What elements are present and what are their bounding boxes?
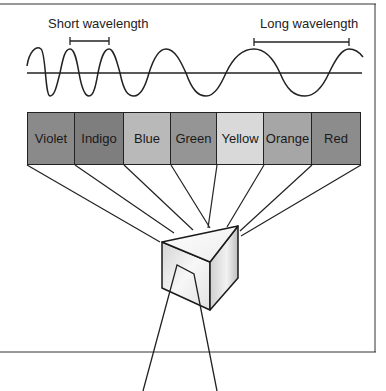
long-wavelength-bracket xyxy=(254,38,349,46)
band-violet: Violet xyxy=(27,112,75,165)
band-orange: Orange xyxy=(264,112,312,165)
band-violet-label: Violet xyxy=(35,131,67,146)
long-wavelength-label: Long wavelength xyxy=(260,16,358,31)
band-green: Green xyxy=(171,112,217,165)
short-wavelength-label: Short wavelength xyxy=(48,16,148,31)
band-blue-label: Blue xyxy=(134,131,160,146)
band-indigo-label: Indigo xyxy=(81,131,116,146)
short-wavelength-bracket xyxy=(70,37,109,45)
wave-curve xyxy=(27,48,363,96)
band-yellow-label: Yellow xyxy=(221,131,258,146)
band-blue: Blue xyxy=(124,112,171,165)
light-dispersion-diagram: Short wavelength Long wavelength Violet … xyxy=(0,0,386,391)
band-indigo: Indigo xyxy=(75,112,124,165)
band-red: Red xyxy=(312,112,361,165)
band-yellow: Yellow xyxy=(217,112,264,165)
band-red-label: Red xyxy=(324,131,348,146)
prism xyxy=(162,226,238,310)
band-orange-label: Orange xyxy=(266,131,309,146)
dispersed-rays xyxy=(27,165,361,242)
band-green-label: Green xyxy=(175,131,211,146)
diagram-graphics xyxy=(0,0,386,391)
